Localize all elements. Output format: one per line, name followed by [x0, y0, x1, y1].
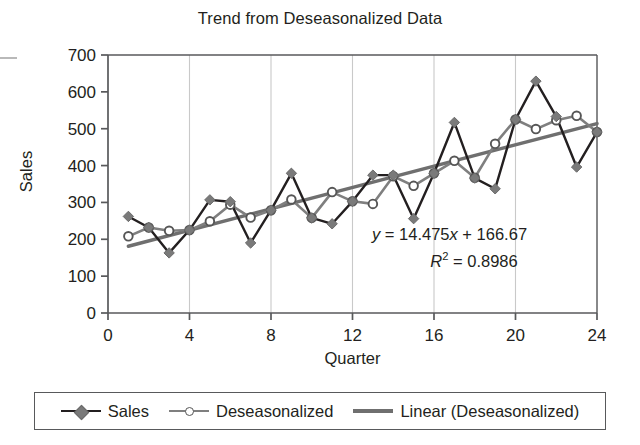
legend-key-linear-icon — [353, 403, 393, 419]
svg-text:24: 24 — [588, 326, 607, 345]
legend-label-linear: Linear (Deseasonalized) — [400, 402, 579, 421]
trendline-equation: y = 14.475x + 166.67 — [372, 222, 594, 248]
trendline-annotation: y = 14.475x + 166.67 R2 = 0.8986 — [372, 222, 594, 274]
svg-text:500: 500 — [68, 120, 96, 139]
chart-canvas: 0100200300400500600700 04812162024 Sales… — [0, 0, 640, 445]
legend-label-sales: Sales — [108, 402, 149, 421]
legend-key-sales-icon — [61, 403, 101, 419]
svg-text:0: 0 — [87, 304, 96, 323]
svg-text:20: 20 — [506, 326, 525, 345]
legend-item-sales[interactable]: Sales — [61, 402, 149, 421]
x-axis-ticks — [108, 313, 597, 320]
svg-text:200: 200 — [68, 230, 96, 249]
svg-text:4: 4 — [185, 326, 194, 345]
legend-key-deseasonalized-icon — [169, 403, 209, 419]
svg-text:100: 100 — [68, 267, 96, 286]
gridlines — [190, 55, 598, 313]
y-axis-label: Sales — [17, 127, 36, 217]
chart-legend: Sales Deseasonalized Linear (Deseasonali… — [34, 392, 606, 430]
svg-text:8: 8 — [266, 326, 275, 345]
svg-text:0: 0 — [103, 326, 112, 345]
y-axis-ticks — [101, 55, 108, 313]
svg-text:300: 300 — [68, 193, 96, 212]
legend-item-deseasonalized[interactable]: Deseasonalized — [169, 402, 333, 421]
legend-item-linear[interactable]: Linear (Deseasonalized) — [353, 402, 579, 421]
svg-text:16: 16 — [425, 326, 444, 345]
x-axis-label: Quarter — [108, 349, 597, 368]
trendline-r-squared: R2 = 0.8986 — [372, 248, 594, 274]
legend-label-deseasonalized: Deseasonalized — [216, 402, 333, 421]
svg-text:700: 700 — [68, 46, 96, 65]
svg-text:600: 600 — [68, 83, 96, 102]
y-axis-tick-labels: 0100200300400500600700 — [68, 46, 96, 323]
chart-page: Trend from Deseasonalized Data 010020030… — [0, 0, 640, 445]
x-axis-tick-labels: 04812162024 — [103, 326, 606, 345]
svg-text:12: 12 — [343, 326, 362, 345]
svg-text:400: 400 — [68, 157, 96, 176]
